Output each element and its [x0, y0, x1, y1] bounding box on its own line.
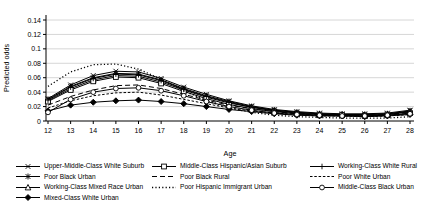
series-marker-icon: [152, 162, 176, 171]
legend-item: Poor White Urban: [310, 172, 432, 183]
legend-label: Working-Class Mixed Race Urban: [44, 182, 143, 192]
predicted-odds-line-chart: 00.020.040.060.080.10.120.14121314151617…: [0, 0, 432, 207]
legend-label: Poor Black Urban: [44, 172, 96, 182]
legend-label: Upper-Middle-Class White Suburb: [44, 161, 144, 171]
svg-text:23: 23: [293, 127, 301, 134]
legend-item: Middle-Class Black Urban: [310, 182, 432, 193]
legend-label: Working-Class White Rural: [338, 161, 417, 171]
legend-item: Poor Hispanic Immigrant Urban: [152, 182, 310, 193]
svg-text:15: 15: [112, 127, 120, 134]
svg-text:18: 18: [180, 127, 188, 134]
series-marker-icon: [310, 172, 334, 181]
svg-text:24: 24: [316, 127, 324, 134]
legend-label: Mixed-Class White Urban: [44, 193, 119, 203]
legend-label: Poor White Urban: [338, 172, 390, 182]
svg-text:12: 12: [44, 127, 52, 134]
legend-column-1: Upper-Middle-Class White Suburb Poor Bla…: [16, 161, 152, 203]
plot-area: 00.020.040.060.080.10.120.14121314151617…: [0, 0, 432, 160]
legend-item: Middle-Class Hispanic/Asian Suburb: [152, 161, 310, 172]
svg-text:14: 14: [89, 127, 97, 134]
svg-text:28: 28: [406, 127, 414, 134]
series-marker-icon: [16, 172, 40, 181]
legend-item: Upper-Middle-Class White Suburb: [16, 161, 152, 172]
svg-text:0.02: 0.02: [27, 103, 41, 110]
legend-item: Poor Black Urban: [16, 172, 152, 183]
legend-label: Poor Black Rural: [180, 172, 229, 182]
legend-item: Poor Black Rural: [152, 172, 310, 183]
svg-text:0.12: 0.12: [27, 31, 41, 38]
svg-text:13: 13: [67, 127, 75, 134]
svg-text:0.04: 0.04: [27, 89, 41, 96]
x-axis-title: Age: [224, 149, 237, 158]
legend-label: Poor Hispanic Immigrant Urban: [180, 182, 272, 192]
y-axis-title: Predicted odds: [2, 44, 11, 92]
svg-text:16: 16: [135, 127, 143, 134]
series-marker-icon: [16, 162, 40, 171]
svg-text:0.08: 0.08: [27, 60, 41, 67]
svg-text:0.1: 0.1: [31, 45, 41, 52]
legend-column-2: Middle-Class Hispanic/Asian Suburb Poor …: [152, 161, 310, 193]
svg-text:26: 26: [361, 127, 369, 134]
series-marker-icon: [152, 172, 176, 181]
svg-text:27: 27: [383, 127, 391, 134]
svg-text:20: 20: [225, 127, 233, 134]
legend-item: Working-Class Mixed Race Urban: [16, 182, 152, 193]
gridlines: [46, 20, 414, 107]
svg-text:21: 21: [248, 127, 256, 134]
svg-text:25: 25: [338, 127, 346, 134]
svg-text:17: 17: [157, 127, 165, 134]
svg-text:0.06: 0.06: [27, 74, 41, 81]
svg-text:19: 19: [202, 127, 210, 134]
svg-text:0.14: 0.14: [27, 17, 41, 24]
legend-label: Middle-Class Black Urban: [338, 182, 414, 192]
legend-column-3: Working-Class White Rural Poor White Urb…: [310, 161, 432, 193]
series-marker-icon: [152, 183, 176, 192]
legend-label: Middle-Class Hispanic/Asian Suburb: [180, 161, 287, 171]
series-marker-icon: [310, 162, 334, 171]
legend-item: Working-Class White Rural: [310, 161, 432, 172]
legend-item: Mixed-Class White Urban: [16, 193, 152, 204]
series-marker-icon: [16, 193, 40, 202]
chart-legend: Upper-Middle-Class White Suburb Poor Bla…: [0, 161, 432, 207]
series-marker-icon: [16, 183, 40, 192]
series-marker-icon: [310, 183, 334, 192]
svg-text:22: 22: [270, 127, 278, 134]
svg-text:0: 0: [37, 118, 41, 125]
